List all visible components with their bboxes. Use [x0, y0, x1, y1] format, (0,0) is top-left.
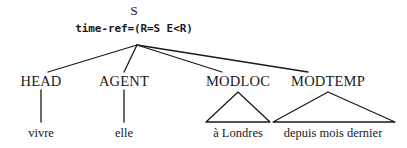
edge-root-modloc [137, 45, 222, 72]
edge-root-agent [124, 45, 137, 72]
category-label-modtemp: MODTEMP [291, 74, 365, 89]
category-label-head: HEAD [20, 74, 61, 89]
edge-root-modtemp [137, 45, 308, 72]
root-feature-label: time-ref=(R=S E<R) [75, 23, 192, 34]
triangle-modtemp [273, 92, 395, 122]
triangle-modloc [206, 92, 270, 122]
syntax-tree-figure: S time-ref=(R=S E<R) HEAD AGENT MODLOC M… [0, 0, 407, 148]
root-node-label: S [130, 4, 138, 18]
leaf-label-head: vivre [28, 127, 54, 140]
category-label-agent: AGENT [99, 74, 149, 89]
edge-root-head [48, 45, 137, 72]
leaf-label-modtemp: depuis mois dernier [284, 127, 383, 140]
category-label-modloc: MODLOC [206, 74, 270, 89]
leaf-label-agent: elle [115, 127, 133, 140]
leaf-label-modloc: à Londres [213, 127, 263, 140]
